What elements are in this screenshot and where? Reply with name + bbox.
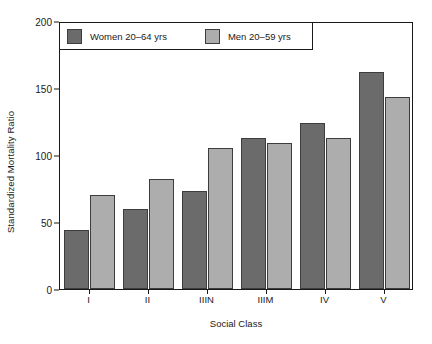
y-tick-label: 0 xyxy=(20,285,52,296)
y-axis-tick-labels: 050100150200 xyxy=(20,0,52,344)
bar xyxy=(182,191,208,289)
y-tick-label: 100 xyxy=(20,151,52,162)
x-tick-mark xyxy=(89,290,90,294)
legend-entry-women: Women 20–64 yrs xyxy=(67,23,167,49)
bar xyxy=(359,72,385,289)
bar xyxy=(300,123,326,289)
bar xyxy=(149,179,175,289)
bar xyxy=(123,209,149,289)
y-tick-mark xyxy=(54,290,59,291)
bar-chart: Standardized Mortality Ratio 05010015020… xyxy=(0,0,432,344)
x-axis-title: Social Class xyxy=(59,318,413,329)
x-tick-label: I xyxy=(87,294,90,305)
legend: Women 20–64 yrs Men 20–59 yrs xyxy=(59,22,313,50)
legend-label-women: Women 20–64 yrs xyxy=(90,31,167,42)
y-tick-label: 150 xyxy=(20,84,52,95)
y-tick-label: 200 xyxy=(20,17,52,28)
bar xyxy=(241,138,267,289)
x-axis-tick-labels: IIIIIINIIIMIVV xyxy=(59,294,413,310)
bars-layer xyxy=(60,23,412,289)
x-tick-label: IIIM xyxy=(258,294,274,305)
y-tick-mark xyxy=(54,156,59,157)
y-tick-mark xyxy=(54,223,59,224)
bar xyxy=(385,97,411,289)
y-tick-mark xyxy=(54,89,59,90)
y-axis-title: Standardized Mortality Ratio xyxy=(0,0,20,344)
bar xyxy=(326,138,352,289)
legend-swatch-men xyxy=(205,29,220,44)
x-tick-mark xyxy=(148,290,149,294)
x-tick-mark xyxy=(325,290,326,294)
legend-swatch-women xyxy=(67,29,82,44)
plot-area xyxy=(59,22,413,290)
x-tick-label: II xyxy=(145,294,150,305)
legend-label-men: Men 20–59 yrs xyxy=(228,31,291,42)
x-tick-label: IV xyxy=(320,294,329,305)
bar xyxy=(64,230,90,289)
bar xyxy=(90,195,116,289)
legend-entry-men: Men 20–59 yrs xyxy=(205,23,291,49)
x-tick-label: V xyxy=(380,294,386,305)
x-tick-label: IIIN xyxy=(199,294,214,305)
y-tick-label: 50 xyxy=(20,218,52,229)
x-tick-mark xyxy=(207,290,208,294)
bar xyxy=(208,148,234,289)
bar xyxy=(267,143,293,289)
x-tick-mark xyxy=(384,290,385,294)
x-tick-mark xyxy=(266,290,267,294)
